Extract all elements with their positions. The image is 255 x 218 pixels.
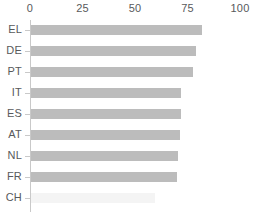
- bar: [31, 130, 180, 140]
- chart-row: IT: [0, 83, 255, 104]
- chart-row: ES: [0, 104, 255, 125]
- chart-row: AT: [0, 125, 255, 146]
- bar: [31, 193, 155, 203]
- y-axis-tick: [25, 72, 30, 73]
- x-axis-tick-label: 0: [27, 2, 33, 14]
- bar: [31, 172, 177, 182]
- y-axis-category-label: CH: [0, 191, 22, 203]
- y-axis-category-label: IT: [0, 86, 22, 98]
- bar: [31, 151, 178, 161]
- chart-row: NL: [0, 146, 255, 167]
- chart-row: CH: [0, 188, 255, 209]
- bar-chart: 0255075100 ELDEPTITESATNLFRCH: [0, 0, 255, 218]
- y-axis-tick: [25, 51, 30, 52]
- y-axis-category-label: FR: [0, 170, 22, 182]
- y-axis-tick: [25, 198, 30, 199]
- x-axis-tick-label: 100: [231, 2, 250, 14]
- y-axis-category-label: ES: [0, 107, 22, 119]
- y-axis-tick: [25, 135, 30, 136]
- x-axis-tick-label: 75: [181, 2, 194, 14]
- x-axis-tick-label: 25: [76, 2, 89, 14]
- y-axis-category-label: PT: [0, 65, 22, 77]
- y-axis-category-label: EL: [0, 23, 22, 35]
- y-axis-tick: [25, 156, 30, 157]
- y-axis-tick: [25, 30, 30, 31]
- bar: [31, 67, 193, 77]
- x-axis-tick-label: 50: [129, 2, 142, 14]
- chart-row: EL: [0, 20, 255, 41]
- y-axis-tick: [25, 177, 30, 178]
- chart-row: PT: [0, 62, 255, 83]
- y-axis-category-label: AT: [0, 128, 22, 140]
- bar: [31, 46, 196, 56]
- y-axis-tick: [25, 93, 30, 94]
- chart-row: FR: [0, 167, 255, 188]
- bar: [31, 109, 181, 119]
- y-axis-category-label: DE: [0, 44, 22, 56]
- y-axis-category-label: NL: [0, 149, 22, 161]
- bar: [31, 88, 181, 98]
- y-axis-tick: [25, 114, 30, 115]
- plot-area: ELDEPTITESATNLFRCH: [0, 18, 255, 218]
- x-axis: 0255075100: [0, 0, 255, 18]
- chart-row: DE: [0, 41, 255, 62]
- bar: [31, 25, 202, 35]
